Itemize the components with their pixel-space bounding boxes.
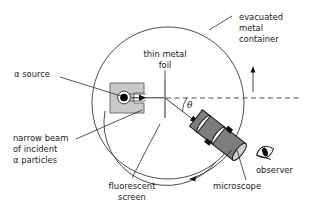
label-thin-metal-foil-line2: foil [130, 60, 200, 71]
label-scattering-angle-theta: θ [187, 100, 192, 111]
label-evacuated-container-line1: evacuated [239, 12, 283, 23]
label-observer: observer [256, 165, 293, 176]
rotation-arrow-up-head [251, 66, 256, 72]
label-evacuated-container-line2: metal [239, 23, 263, 34]
label-narrow-beam-line1: narrow beam [13, 133, 68, 144]
incident-beam-arrowhead [139, 95, 146, 101]
label-fluorescent-screen-line1: fluorescent [92, 181, 172, 192]
label-evacuated-container-line3: container [239, 34, 279, 45]
label-thin-metal-foil-line1: thin metal [130, 49, 200, 60]
leader-narrow-beam [76, 110, 142, 139]
microscope-assembly [188, 107, 251, 165]
label-fluorescent-screen-line2: screen [92, 192, 172, 203]
label-narrow-beam-line3: α particles [13, 155, 57, 166]
leader-fluorescent-screen [132, 124, 160, 178]
label-narrow-beam-line2: of incident [13, 144, 57, 155]
rotation-arrow-down-head [189, 176, 196, 181]
label-alpha-source: α source [14, 69, 50, 80]
alpha-source-pellet [120, 94, 128, 102]
observer-eye [255, 144, 277, 164]
rutherford-scattering-diagram: α source thin metal foil evacuated metal… [0, 0, 312, 214]
label-microscope: microscope [213, 181, 261, 192]
leader-evacuated-container [209, 16, 232, 30]
